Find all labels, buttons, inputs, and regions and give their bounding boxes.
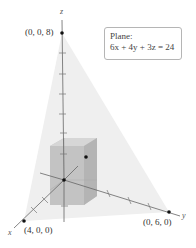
point-origin (62, 178, 66, 182)
rectangular-box (50, 138, 97, 205)
point-0-6-0 (167, 210, 171, 214)
point-label-0-0-8: (0, 0, 8) (25, 28, 54, 37)
x-axis-label: x (8, 229, 12, 237)
point-label-4-0-0: (4, 0, 0) (24, 226, 53, 235)
point-4-0-0 (22, 219, 26, 223)
y-axis-label: y (182, 212, 186, 220)
plane-title: Plane: (110, 31, 176, 42)
point-box-corner (84, 155, 88, 159)
plane-equation: 6x + 4y + 3z = 24 (110, 42, 176, 53)
z-axis-label: z (60, 8, 63, 16)
point-label-0-6-0: (0, 6, 0) (143, 218, 172, 227)
point-0-0-8 (60, 31, 64, 35)
plane-equation-box: Plane: 6x + 4y + 3z = 24 (104, 27, 182, 60)
